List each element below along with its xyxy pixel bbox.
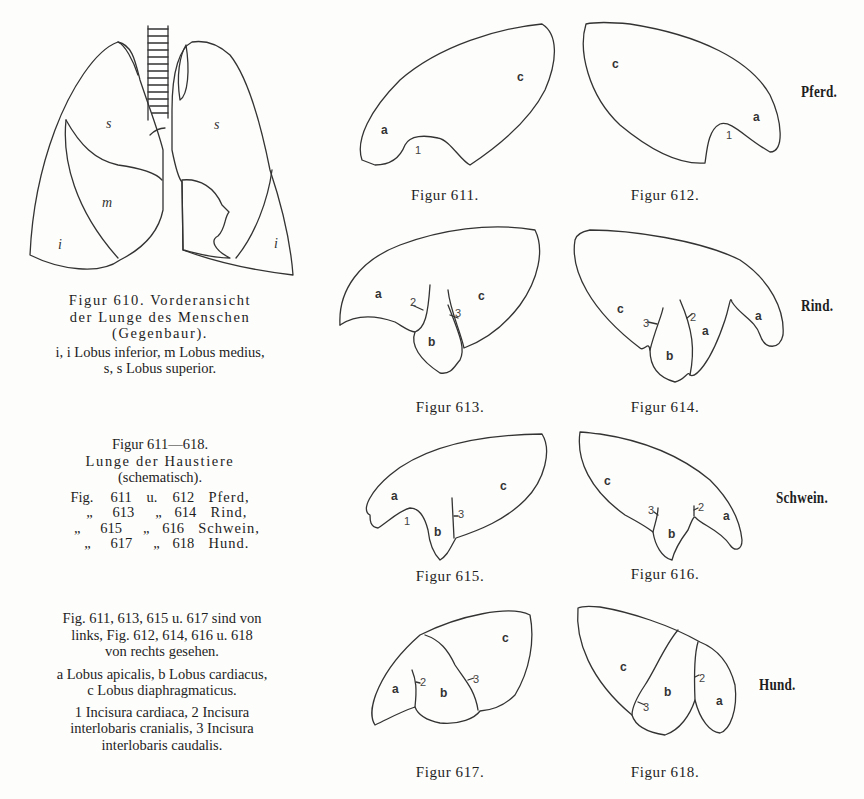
series-subtitle: Lunge der Haustiere [10,453,310,470]
svg-text:3: 3 [643,317,649,329]
figure-615-pig-lung-left: a b c 1 3 [330,420,560,570]
label-s-right: s [214,117,220,132]
figure-616-pig-lung-right: c b a 3 2 [570,420,770,570]
svg-text:3: 3 [643,701,649,713]
svg-text:3: 3 [458,508,464,520]
svg-text:b: b [668,527,675,541]
species-index: Fig. 611 u. 612 Pferd, „ 613 „ 614 Rind,… [10,490,310,552]
species-label-pferd: Pferd. [801,83,837,101]
svg-text:b: b [440,686,447,700]
svg-text:c: c [620,660,627,674]
svg-text:c: c [500,479,507,493]
label-i-right: i [274,236,278,251]
label-s-left: s [106,116,112,131]
incisura-legend: 1 Incisura cardiaca, 2 Incisura [16,704,308,721]
svg-text:2: 2 [420,676,426,688]
caption-line: Figur 610. Vorderansicht [10,292,310,309]
figure-612-horse-lung-right: c a 1 [570,0,790,215]
species-label-hund: Hund. [759,676,796,694]
figure-610-caption: Figur 610. Vorderansicht der Lunge des M… [10,292,310,377]
label-i-left: i [58,237,62,252]
svg-text:1: 1 [415,144,421,156]
caption-line: (Gegenbaur). [10,325,310,342]
view-note: Fig. 611, 613, 615 u. 617 sind von links… [16,610,308,753]
incisura-legend: interlobaris cranialis, 3 Incisura [16,720,308,737]
trachea-icon [148,26,168,122]
series-title: Figur 611—618. [10,436,310,453]
svg-text:a: a [723,509,730,523]
svg-text:a: a [391,489,398,503]
svg-text:a: a [716,694,723,708]
svg-text:b: b [434,525,441,539]
svg-text:a: a [753,110,760,124]
figure-613-cattle-lung-left: a b c 2 3 [330,210,550,380]
figure-610-human-lung-illustration: s s m i i [0,0,320,290]
svg-text:b: b [664,685,671,699]
index-row: „ 617 „ 618 Hund. [10,536,310,552]
svg-text:2: 2 [698,501,704,513]
legend-line: i, i Lobus inferior, m Lobus medius, [10,344,310,361]
lobes-legend: c Lobus diaphragmaticus. [16,682,308,699]
index-row: „ 613 „ 614 Rind, [10,505,310,521]
series-note: (schematisch). [10,469,310,486]
svg-text:3: 3 [473,673,479,685]
svg-text:c: c [612,57,619,71]
figure-617-dog-lung-left: a b c 2 3 [330,590,550,740]
incisura-legend: interlobaris caudalis. [16,737,308,754]
svg-text:3: 3 [648,504,654,516]
svg-text:a: a [375,287,382,301]
species-label-rind: Rind. [801,297,833,315]
figure-617-caption: Figur 617. [385,764,515,781]
figure-611-caption: Figur 611. [380,187,510,204]
series-caption: Figur 611—618. Lunge der Haustiere (sche… [10,436,310,552]
figure-614-cattle-lung-right: c b a a 3 2 [570,210,800,390]
caption-line: der Lunge des Menschen [10,309,310,326]
svg-text:c: c [617,302,624,316]
svg-text:a: a [702,324,709,338]
figure-612-caption: Figur 612. [605,187,725,204]
svg-text:c: c [502,631,509,645]
svg-text:3: 3 [455,307,461,319]
svg-text:2: 2 [410,296,416,308]
svg-text:1: 1 [404,515,410,527]
lobes-legend: a Lobus apicalis, b Lobus cardiacus, [16,666,308,683]
figure-613-caption: Figur 613. [385,399,515,416]
svg-text:1: 1 [726,129,732,141]
svg-text:a: a [381,123,388,137]
svg-text:b: b [428,335,435,349]
svg-text:2: 2 [690,311,696,323]
figure-614-caption: Figur 614. [605,399,725,416]
figure-618-caption: Figur 618. [605,764,725,781]
label-m: m [102,195,112,210]
svg-text:c: c [604,474,611,488]
index-row: Fig. 611 u. 612 Pferd, [10,490,310,506]
index-row: „ 615 „ 616 Schwein, [10,521,310,537]
svg-text:a: a [755,309,762,323]
svg-text:b: b [666,349,673,363]
svg-text:2: 2 [699,672,705,684]
figure-615-caption: Figur 615. [385,568,515,585]
right-lung-icon [30,42,165,269]
figure-616-caption: Figur 616. [605,566,725,583]
figure-611-horse-lung-left: a c 1 [330,0,570,215]
species-label-schwein: Schwein. [776,489,828,507]
svg-text:a: a [392,682,399,696]
legend-line: s, s Lobus superior. [10,360,310,377]
svg-text:c: c [517,70,524,84]
figure-618-dog-lung-right: c b a 3 2 [570,590,770,750]
svg-text:c: c [478,289,485,303]
